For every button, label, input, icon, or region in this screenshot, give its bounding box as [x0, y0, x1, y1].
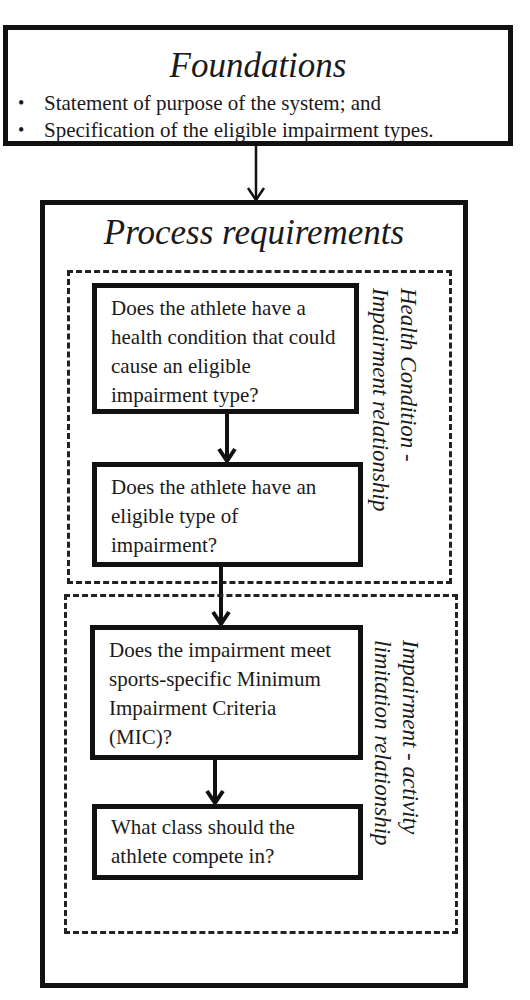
step-health-condition-text: Does the athlete have a health condition… [97, 288, 354, 416]
foundations-bullet-impairment-types: Specification of the eligible impairment… [8, 117, 508, 144]
step-minimum-impairment-criteria: Does the impairment meet sports-specific… [90, 625, 363, 760]
foundations-box: Foundations Statement of purpose of the … [3, 25, 513, 146]
health-condition-label-line1: Health Condition - [396, 288, 421, 462]
impairment-activity-label-line1: Impairment - activity [398, 640, 423, 834]
step-class-assignment: What class should the athlete compete in… [92, 804, 363, 880]
step-health-condition: Does the athlete have a health condition… [92, 283, 359, 414]
step-eligible-impairment: Does the athlete have an eligible type o… [92, 462, 363, 567]
arrow-down-icon [246, 146, 266, 202]
arrow-down-icon [205, 759, 225, 805]
step-eligible-impairment-text: Does the athlete have an eligible type o… [97, 467, 358, 566]
step-mic-text: Does the impairment meet sports-specific… [95, 630, 358, 758]
foundations-bullet-purpose: Statement of purpose of the system; and [8, 90, 508, 117]
health-condition-label-line2: Impairment relationship [368, 288, 393, 511]
foundations-bullet-list: Statement of purpose of the system; and … [8, 90, 508, 144]
foundations-title: Foundations [8, 46, 508, 86]
impairment-activity-label-line2: limitation relationship [370, 640, 395, 846]
step-class-text: What class should the athlete compete in… [97, 809, 358, 877]
impairment-activity-group-label: Impairment - activity limitation relatio… [368, 640, 424, 930]
arrow-down-icon [217, 413, 237, 463]
health-condition-group-label: Health Condition - Impairment relationsh… [366, 288, 422, 578]
process-requirements-title: Process requirements [45, 213, 463, 253]
